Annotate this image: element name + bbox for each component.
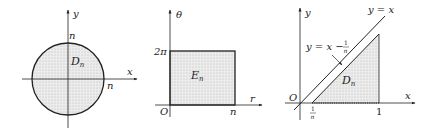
- r-axis-label: r: [250, 93, 256, 104]
- svg-text:n: n: [311, 113, 315, 120]
- right-n-label: n: [107, 80, 113, 91]
- svg-text:1: 1: [311, 105, 315, 112]
- tick-one: 1: [376, 106, 382, 117]
- svg-text:y = x −: y = x −: [305, 41, 344, 52]
- x-axis-label: x: [405, 90, 411, 101]
- pointer-arrow: [332, 55, 342, 65]
- x-axis-label: x: [127, 66, 133, 77]
- n-tick-label: n: [230, 106, 236, 117]
- two-pi-label: 2π: [153, 46, 167, 57]
- origin-label: O: [289, 92, 297, 103]
- diagram-canvas: y x n n Dn θ r 2π O n En y x O y = x y =…: [0, 0, 430, 132]
- panel-triangle: y x O y = x y = x − 1 n Dn 1 n 1: [285, 4, 415, 120]
- y-axis-label: y: [72, 8, 79, 19]
- origin-label: O: [160, 106, 168, 117]
- svg-text:1: 1: [344, 39, 348, 46]
- theta-axis-label: θ: [176, 9, 182, 20]
- line-y-equals-x-label: y = x: [367, 4, 394, 15]
- line-y-equals-x-minus-1-over-n-label: y = x − 1 n: [305, 39, 349, 54]
- panel-rectangle: θ r 2π O n En: [153, 9, 262, 117]
- top-n-label: n: [69, 30, 75, 41]
- svg-text:n: n: [344, 47, 348, 54]
- y-axis-label: y: [304, 7, 311, 18]
- panel-disk: y x n n Dn: [22, 8, 137, 128]
- tick-one-over-n: 1 n: [310, 105, 316, 120]
